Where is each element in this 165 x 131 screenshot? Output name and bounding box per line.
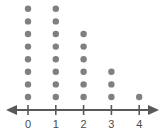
data-dot [25, 81, 31, 87]
axis-arrow-right-icon [148, 105, 159, 115]
data-dot [25, 6, 31, 12]
data-dot [108, 69, 114, 75]
data-dot [108, 94, 114, 100]
axis-arrow-left-icon [6, 105, 17, 115]
data-dot [80, 69, 86, 75]
dot-column-0 [25, 6, 31, 101]
dot-columns-group [25, 0, 143, 100]
axis-tick-label-3: 3 [108, 118, 114, 130]
data-dot [80, 81, 86, 87]
data-dot [53, 81, 59, 87]
data-dot [25, 56, 31, 62]
data-dot [108, 81, 114, 87]
data-dot [25, 18, 31, 24]
data-dot [53, 43, 59, 49]
axis-tick-label-2: 2 [81, 118, 87, 130]
axis-tick-label-4: 4 [136, 118, 142, 130]
axis-tick-label-1: 1 [53, 118, 59, 130]
data-dot [80, 31, 86, 37]
data-dot [53, 94, 59, 100]
data-dot [80, 94, 86, 100]
dot-column-1 [53, 0, 59, 100]
data-dot [53, 6, 59, 12]
axis-tick-labels-group: 01234 [25, 118, 142, 130]
dot-plot-canvas: 01234 [0, 0, 165, 131]
data-dot [25, 31, 31, 37]
dot-plot-figure: 01234 [0, 0, 165, 131]
axis-tick-label-0: 0 [25, 118, 31, 130]
data-dot [25, 94, 31, 100]
dot-column-2 [80, 31, 86, 100]
number-line-axis-group [6, 105, 159, 115]
data-dot [80, 56, 86, 62]
data-dot [53, 18, 59, 24]
data-dot [136, 94, 142, 100]
data-dot [25, 43, 31, 49]
data-dot [80, 43, 86, 49]
data-dot [53, 69, 59, 75]
dot-column-4 [136, 94, 142, 100]
dot-column-3 [108, 69, 114, 101]
data-dot [25, 69, 31, 75]
data-dot [53, 31, 59, 37]
data-dot [53, 56, 59, 62]
